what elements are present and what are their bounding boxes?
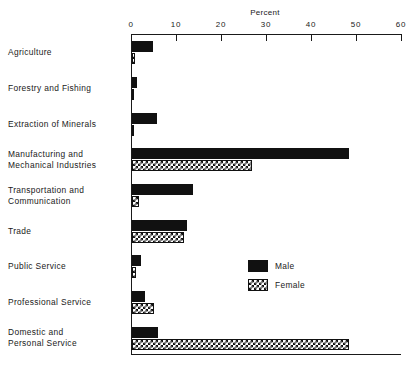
y-axis-category-labels: AgricultureForestry and FishingExtractio… (0, 34, 128, 355)
bar-female-1 (132, 89, 134, 100)
legend-swatch-male (248, 260, 268, 272)
category-label-5: Trade (8, 226, 128, 237)
category-label-2: Extraction of Minerals (8, 119, 128, 130)
bar-female-6 (132, 267, 136, 278)
bar-male-3 (132, 148, 349, 159)
x-tick-mark-40 (311, 34, 312, 41)
legend-label: Male (275, 261, 295, 271)
category-label-0: Agriculture (8, 47, 128, 58)
category-label-line: Professional Service (8, 297, 128, 308)
legend-label: Female (275, 280, 305, 290)
category-label-7: Professional Service (8, 297, 128, 308)
x-axis-tick-labels: 0102030405060 (0, 20, 401, 32)
bar-male-1 (132, 77, 137, 88)
category-label-1: Forestry and Fishing (8, 83, 128, 94)
legend: MaleFemale (248, 260, 338, 305)
bar-male-4 (132, 184, 193, 195)
bar-male-0 (132, 41, 153, 52)
x-tick-mark-0 (131, 34, 132, 41)
category-label-line: Public Service (8, 261, 128, 272)
category-label-line: Forestry and Fishing (8, 83, 128, 94)
bar-female-4 (132, 196, 139, 207)
bar-female-7 (132, 303, 154, 314)
category-label-line: Domestic and (8, 327, 128, 338)
category-label-line: Trade (8, 226, 128, 237)
category-label-line: Mechanical Industries (8, 160, 128, 171)
bar-male-8 (132, 327, 158, 338)
plot-area (131, 34, 401, 355)
category-label-line: Communication (8, 196, 128, 207)
category-label-line: Agriculture (8, 47, 128, 58)
legend-swatch-female (248, 279, 268, 291)
category-label-line: Extraction of Minerals (8, 119, 128, 130)
category-label-4: Transportation andCommunication (8, 185, 128, 207)
category-label-line: Manufacturing and (8, 149, 128, 160)
category-label-6: Public Service (8, 261, 128, 272)
bar-female-5 (132, 232, 184, 243)
bar-female-3 (132, 160, 252, 171)
bar-female-2 (132, 125, 134, 136)
x-tick-mark-20 (221, 34, 222, 41)
x-tick-mark-60 (401, 34, 402, 41)
x-tick-label-40: 40 (306, 20, 317, 29)
x-tick-label-0: 0 (128, 20, 133, 29)
x-tick-mark-30 (266, 34, 267, 41)
x-tick-label-50: 50 (351, 20, 362, 29)
bar-female-8 (132, 339, 349, 350)
bar-female-0 (132, 53, 135, 64)
bar-male-6 (132, 255, 141, 266)
x-tick-mark-10 (176, 34, 177, 41)
x-tick-mark-50 (356, 34, 357, 41)
bar-male-5 (132, 220, 187, 231)
x-tick-label-60: 60 (396, 20, 406, 29)
bar-male-2 (132, 113, 157, 124)
x-tick-label-20: 20 (216, 20, 227, 29)
category-label-line: Personal Service (8, 338, 128, 349)
plot-bottom-line (131, 354, 401, 355)
category-label-3: Manufacturing andMechanical Industries (8, 149, 128, 171)
x-tick-label-30: 30 (261, 20, 272, 29)
category-label-8: Domestic andPersonal Service (8, 327, 128, 349)
axis-title: Percent (225, 8, 305, 17)
category-label-line: Transportation and (8, 185, 128, 196)
bar-male-7 (132, 291, 145, 302)
x-tick-label-10: 10 (171, 20, 182, 29)
